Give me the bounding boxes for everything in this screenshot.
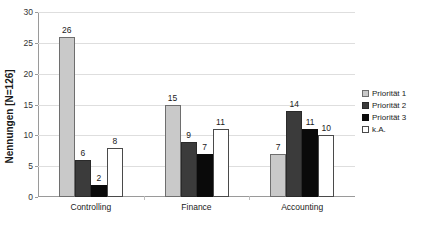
y-tick-mark <box>35 43 38 44</box>
legend-label: k.A. <box>372 125 386 134</box>
gridline <box>38 43 355 44</box>
category-label: Controlling <box>38 202 144 212</box>
legend-swatch-icon <box>362 114 369 121</box>
bar-chart: Nennungen [N=126] 051015202530 266281597… <box>0 0 425 233</box>
legend-item[interactable]: k.A. <box>362 124 425 135</box>
legend-label: Priorität 3 <box>372 113 406 122</box>
y-tick-label: 20 <box>11 70 33 79</box>
y-tick-label: 30 <box>11 8 33 17</box>
bar-value-label: 11 <box>207 118 235 127</box>
bar-value-label: 10 <box>312 124 340 133</box>
bar-value-label: 7 <box>264 143 292 152</box>
bar <box>165 105 181 198</box>
bar <box>91 185 107 197</box>
category-label: Finance <box>144 202 250 212</box>
y-tick-label: 10 <box>11 131 33 140</box>
legend-swatch-icon <box>362 90 369 97</box>
category-separator <box>144 196 145 200</box>
y-tick-mark <box>35 166 38 167</box>
bar <box>197 154 213 197</box>
legend-item[interactable]: Priorität 3 <box>362 112 425 123</box>
legend-label: Priorität 1 <box>372 89 406 98</box>
gridline <box>38 74 355 75</box>
y-tick-mark <box>35 105 38 106</box>
bar <box>213 129 229 197</box>
legend-label: Priorität 2 <box>372 101 406 110</box>
plot-area: 051015202530 266281597117141110 Controll… <box>38 12 355 197</box>
bar-value-label: 8 <box>101 137 129 146</box>
legend-swatch-icon <box>362 126 369 133</box>
y-tick-mark <box>35 74 38 75</box>
bar-value-label: 9 <box>175 131 203 140</box>
bar-value-label: 6 <box>69 149 97 158</box>
y-tick-mark <box>35 12 38 13</box>
legend-swatch-icon <box>362 102 369 109</box>
bar <box>302 129 318 197</box>
y-tick-label: 5 <box>11 162 33 171</box>
category-label: Accounting <box>249 202 355 212</box>
bar-value-label: 7 <box>191 143 219 152</box>
legend-item[interactable]: Priorität 2 <box>362 100 425 111</box>
bar <box>318 135 334 197</box>
y-tick-mark <box>35 135 38 136</box>
bar <box>107 148 123 197</box>
bar <box>270 154 286 197</box>
bar <box>59 37 75 197</box>
bar-value-label: 15 <box>159 94 187 103</box>
y-tick-label: 0 <box>11 193 33 202</box>
y-tick-mark <box>35 197 38 198</box>
category-separator <box>249 196 250 200</box>
y-tick-label: 15 <box>11 101 33 110</box>
bar-value-label: 2 <box>85 174 113 183</box>
legend-item[interactable]: Priorität 1 <box>362 88 425 99</box>
y-tick-label: 25 <box>11 39 33 48</box>
gridline <box>38 12 355 13</box>
bar-value-label: 26 <box>53 26 81 35</box>
bar-value-label: 14 <box>280 100 308 109</box>
chart-legend: Priorität 1Priorität 2Priorität 3k.A. <box>362 88 425 136</box>
